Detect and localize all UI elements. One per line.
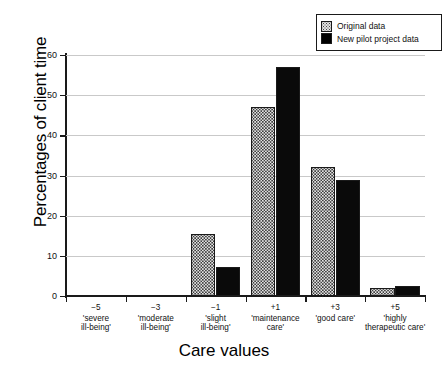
bar-new-pilot-project-data [276, 67, 301, 296]
category-description: therapeutic care' [352, 323, 438, 333]
x-axis-tick [126, 296, 127, 302]
y-axis-tick-label: 50 [47, 91, 57, 100]
y-axis-tick [60, 135, 66, 136]
y-axis-tick-label: 40 [47, 131, 57, 140]
plot-area: 0102030405060 [66, 55, 425, 296]
gridline [66, 55, 425, 56]
gridline [66, 216, 425, 217]
x-axis-tick [66, 296, 67, 302]
bar-original-data [251, 107, 276, 296]
solid-black-swatch-icon [321, 33, 332, 44]
chart-legend: Original data New pilot project data [316, 14, 442, 51]
bar-new-pilot-project-data [216, 267, 241, 296]
gridline [66, 95, 425, 96]
y-axis-tick [60, 95, 66, 96]
category-description: 'highly [352, 314, 438, 324]
category-number: +5 [352, 303, 438, 313]
y-axis-tick [60, 256, 66, 257]
chart-canvas: Original data New pilot project data Per… [0, 0, 448, 373]
bar-new-pilot-project-data [336, 180, 361, 296]
legend-label-original-data: Original data [337, 21, 385, 31]
bar-original-data [311, 167, 336, 296]
bar-new-pilot-project-data [395, 286, 420, 296]
bar-original-data [191, 234, 216, 296]
x-axis-tick [186, 296, 187, 302]
y-axis-tick-label: 60 [47, 51, 57, 60]
legend-item-new-pilot-project-data: New pilot project data [321, 33, 436, 44]
y-axis-tick [60, 55, 66, 56]
bar-original-data [370, 288, 395, 296]
x-axis-category-label: +5'highlytherapeutic care' [352, 303, 438, 333]
y-axis-tick-label: 20 [47, 211, 57, 220]
x-axis-tick [305, 296, 306, 302]
gridline [66, 256, 425, 257]
category-description: care' [232, 323, 318, 333]
legend-label-new-pilot-project-data: New pilot project data [337, 34, 419, 44]
y-axis-tick-label: 30 [47, 171, 57, 180]
y-axis-tick-label: 0 [52, 292, 57, 301]
y-axis-tick-label: 10 [47, 251, 57, 260]
x-axis-tick [425, 296, 426, 302]
x-axis-tick [365, 296, 366, 302]
gridline [66, 135, 425, 136]
legend-item-original-data: Original data [321, 21, 436, 32]
y-axis-tick [60, 176, 66, 177]
stipple-swatch-icon [321, 21, 332, 32]
x-axis-tick [246, 296, 247, 302]
x-axis-title: Care values [0, 341, 448, 361]
y-axis-tick [60, 216, 66, 217]
gridline [66, 176, 425, 177]
